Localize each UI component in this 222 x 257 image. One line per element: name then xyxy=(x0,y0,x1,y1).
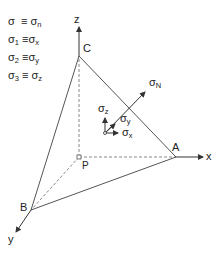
sigma-y-sub: y xyxy=(127,117,131,126)
legend-lhs: σ xyxy=(8,33,15,45)
sigma-n-sub: N xyxy=(156,81,161,90)
vertex-c-label: C xyxy=(83,43,91,54)
legend-lhs: σ xyxy=(8,15,15,27)
z-axis-label: z xyxy=(74,14,80,25)
legend-row-1: σ1 ≡σx xyxy=(8,32,42,50)
legend-rhs-sub: z xyxy=(38,74,42,83)
y-axis-label: y xyxy=(8,234,14,245)
sigma-n-label: σN xyxy=(149,77,161,90)
legend-lhs-sub: 3 xyxy=(15,74,19,83)
sigma-x-label: σx xyxy=(122,127,133,140)
dashed-edge-pb xyxy=(31,157,79,210)
edge-ab xyxy=(31,157,176,210)
y-axis-arrow xyxy=(16,210,31,232)
legend-equiv: ≡ xyxy=(22,69,28,81)
point-p-label: P xyxy=(82,161,89,171)
sigma-symbol: σ xyxy=(120,112,127,124)
vertex-b-label: B xyxy=(20,202,27,213)
legend-rhs-sub: y xyxy=(35,56,39,65)
legend-rhs-sub: x xyxy=(35,38,39,47)
sigma-z-sub: z xyxy=(105,107,109,116)
stress-origin xyxy=(104,132,107,135)
legend-equiv: ≡ xyxy=(21,15,27,27)
legend-row-3: σ3 ≡ σz xyxy=(8,68,42,86)
legend-row-0: σ ≡ σn xyxy=(8,14,42,32)
sigma-symbol: σ xyxy=(149,76,156,88)
legend-lhs: σ xyxy=(8,51,15,63)
legend-lhs: σ xyxy=(8,69,15,81)
legend-row-2: σ2 ≡σy xyxy=(8,50,42,68)
point-p-marker xyxy=(77,155,81,159)
edge-ca xyxy=(79,56,176,157)
sigma-z-label: σz xyxy=(98,103,109,116)
legend-lhs-sub: 1 xyxy=(15,38,19,47)
sigma-symbol: σ xyxy=(98,102,105,114)
x-axis-label: x xyxy=(206,151,212,162)
notation-legend: σ ≡ σn σ1 ≡σx σ2 ≡σy σ3 ≡ σz xyxy=(8,14,42,86)
sigma-x-sub: x xyxy=(129,131,133,140)
legend-lhs-sub: 2 xyxy=(15,56,19,65)
legend-rhs-sub: n xyxy=(37,20,41,29)
sigma-symbol: σ xyxy=(122,126,129,138)
sigma-y-label: σy xyxy=(120,113,131,126)
vertex-a-label: A xyxy=(172,142,179,153)
